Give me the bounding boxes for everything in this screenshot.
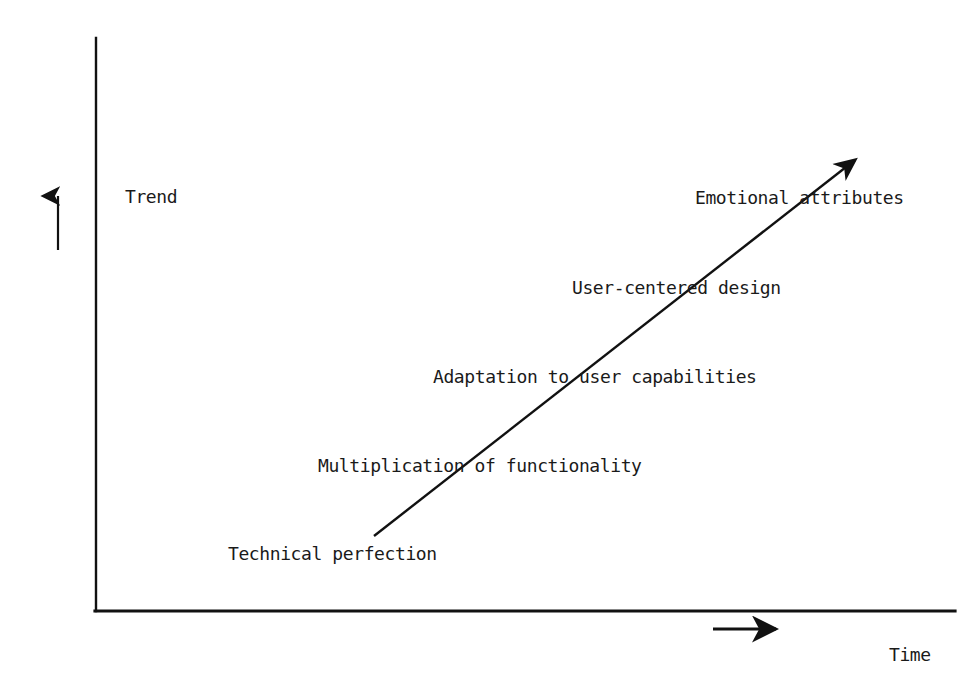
stage-label-user-centered-design: User-centered design: [572, 279, 781, 297]
x-axis-label: Time: [889, 646, 931, 664]
y-axis-label: Trend: [125, 188, 177, 206]
diagram-svg: [0, 0, 964, 673]
trend-arrow-icon: [374, 160, 855, 536]
stage-label-emotional-attributes: Emotional attributes: [695, 189, 904, 207]
stage-label-adaptation-to-user-capabilities: Adaptation to user capabilities: [433, 368, 757, 386]
diagram-canvas: Trend Time Technical perfection Multipli…: [0, 0, 964, 673]
stage-label-multiplication-of-functionality: Multiplication of functionality: [318, 457, 642, 475]
stage-label-technical-perfection: Technical perfection: [228, 545, 437, 563]
